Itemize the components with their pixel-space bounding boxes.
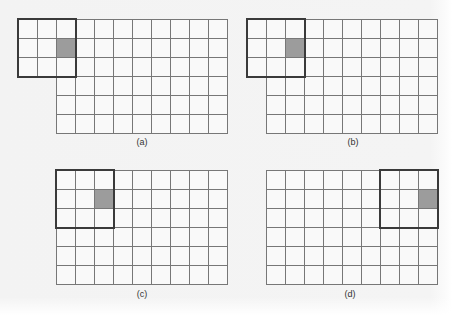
- grid-cell: [323, 95, 342, 114]
- grid-cell: [323, 208, 342, 227]
- grid-cell: [132, 114, 151, 133]
- grid-cell: [304, 227, 323, 246]
- grid-cell: [323, 38, 342, 57]
- grid-cell: [342, 76, 361, 95]
- grid-cell: [285, 227, 304, 246]
- grid-cell: [56, 76, 75, 95]
- grid-cell: [170, 114, 189, 133]
- grid-cell: [132, 265, 151, 284]
- grid-cell: [304, 208, 323, 227]
- grid-cell: [361, 38, 380, 57]
- grid-cell: [132, 246, 151, 265]
- grid-cell: [56, 57, 75, 76]
- grid-cell: [399, 76, 418, 95]
- grid-cell: [132, 19, 151, 38]
- grid-cell: [304, 19, 323, 38]
- grid-cell: [151, 19, 170, 38]
- grid-cell: [304, 246, 323, 265]
- grid-cell: [132, 38, 151, 57]
- grid-cell: [266, 57, 285, 76]
- grid-cell: [342, 265, 361, 284]
- grid-cell: [208, 114, 227, 133]
- grid-cell: [247, 57, 267, 77]
- grid-cell: [75, 19, 94, 38]
- grid-cell: [361, 19, 380, 38]
- figure-canvas: (a) (b) (c) (d): [0, 0, 452, 315]
- grid-cell: [94, 170, 113, 189]
- grid-cell: [380, 246, 399, 265]
- grid-cell: [189, 208, 208, 227]
- grid-cell: [75, 76, 94, 95]
- grid-cell: [151, 76, 170, 95]
- grid-cell: [56, 208, 75, 227]
- grid-cell: [361, 95, 380, 114]
- grid-cell: [266, 76, 285, 95]
- grid-cell: [285, 208, 304, 227]
- grid-cell: [113, 57, 132, 76]
- grid-cell-highlighted: [418, 189, 437, 208]
- grid-cell: [151, 265, 170, 284]
- grid-cell: [285, 189, 304, 208]
- grid-cell: [380, 38, 399, 57]
- grid-cell: [189, 38, 208, 57]
- grid-cell: [323, 19, 342, 38]
- grid-cell: [399, 95, 418, 114]
- grid-cell: [266, 265, 285, 284]
- grid-cell: [380, 208, 399, 227]
- grid-cell: [18, 57, 38, 77]
- grid-cell: [56, 170, 75, 189]
- grid-cell: [361, 57, 380, 76]
- grid-cell: [113, 246, 132, 265]
- grid-cell: [399, 246, 418, 265]
- grid-cell: [189, 95, 208, 114]
- grid-cell: [132, 170, 151, 189]
- grid-cell: [285, 57, 304, 76]
- grid-cell: [418, 114, 437, 133]
- grid-cell: [151, 246, 170, 265]
- grid-cell: [94, 19, 113, 38]
- grid-cell: [304, 265, 323, 284]
- grid-cell: [399, 57, 418, 76]
- grid-cell: [189, 265, 208, 284]
- grid-cell: [75, 265, 94, 284]
- panel-label: (b): [333, 137, 373, 147]
- grid-cell: [94, 95, 113, 114]
- grid-cell: [132, 95, 151, 114]
- grid-cell: [170, 246, 189, 265]
- grid-cell: [342, 57, 361, 76]
- grid-cell: [399, 170, 418, 189]
- grid-cell: [94, 38, 113, 57]
- grid-cell: [380, 57, 399, 76]
- grid-cell: [323, 57, 342, 76]
- grid-cell: [323, 227, 342, 246]
- grid-cell: [75, 57, 94, 76]
- grid-cell: [418, 265, 437, 284]
- grid-cell: [37, 38, 57, 58]
- grid-cell: [170, 76, 189, 95]
- grid-cell: [170, 19, 189, 38]
- grid-cell: [266, 95, 285, 114]
- grid-cell: [418, 227, 437, 246]
- grid-cell: [285, 114, 304, 133]
- grid-cell: [151, 208, 170, 227]
- grid-cell: [18, 19, 38, 39]
- grid-cell: [94, 227, 113, 246]
- grid-cell: [266, 208, 285, 227]
- grid-cell: [151, 189, 170, 208]
- grid-cell: [342, 114, 361, 133]
- grid-cell: [94, 114, 113, 133]
- grid-cell: [304, 57, 323, 76]
- grid-cell: [304, 38, 323, 57]
- grid-cell: [208, 19, 227, 38]
- grid-cell: [342, 227, 361, 246]
- grid-cell: [37, 19, 57, 39]
- grid-cell: [399, 227, 418, 246]
- grid-cell: [56, 114, 75, 133]
- grid-cell: [56, 95, 75, 114]
- grid-cell: [170, 38, 189, 57]
- grid-cell: [75, 170, 94, 189]
- panel-label: (d): [330, 289, 370, 299]
- grid-cell: [113, 76, 132, 95]
- grid-cell: [189, 246, 208, 265]
- grid-cell: [342, 38, 361, 57]
